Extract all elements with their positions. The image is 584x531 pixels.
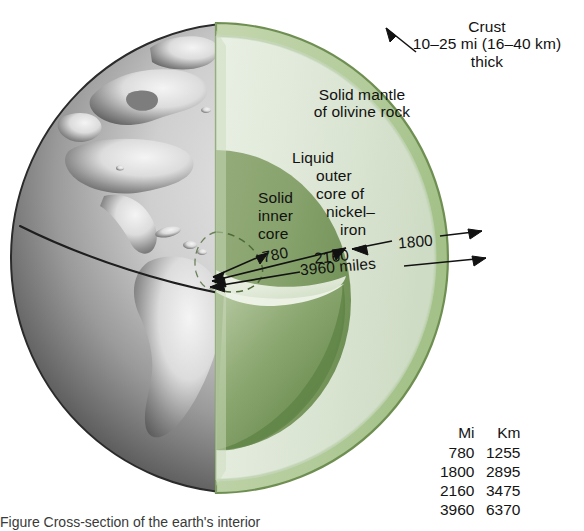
table-row: 1800 2895 [440,463,520,482]
mantle-label-line2: of olivine rock [272,103,452,120]
conversion-km-1: 2895 [474,463,520,482]
outer-core-label-line2: outer [316,167,352,184]
inner-core-label-line3: core [258,225,289,242]
conversion-mi-1: 1800 [440,463,474,482]
figure-caption-text: Figure Cross-section of the earth's inte… [0,514,260,530]
mantle-label-line1: Solid mantle [272,86,452,103]
crust-label-line3: thick [394,53,580,70]
outer-core-label-line4: nickel– [326,203,375,220]
table-row: 780 1255 [440,444,520,463]
outer-core-label-line1: Liquid [292,149,334,166]
inner-core-label-line2: inner [258,207,293,224]
conversion-mi-2: 2160 [440,482,474,501]
conversion-table-header-row: Mi Km [440,424,520,444]
earth-cutaway-figure: Crust 10–25 mi (16–40 km) thick Solid ma… [0,0,584,531]
outer-core-label-line3: core of [316,185,364,202]
crust-label: Crust 10–25 mi (16–40 km) thick [394,18,580,70]
crust-label-line1: Crust [394,18,580,35]
conversion-header-km: Km [474,424,520,444]
figure-caption: Figure Cross-section of the earth's inte… [0,514,584,531]
conversion-mi-0: 780 [440,444,474,463]
conversion-km-2: 3475 [474,482,520,501]
mantle-label: Solid mantle of olivine rock [272,86,452,121]
outer-core-label-line5: iron [340,221,366,238]
measure-mantle-thickness: 1800 [397,232,433,252]
conversion-km-0: 1255 [474,444,520,463]
table-row: 2160 3475 [440,482,520,501]
conversion-table: Mi Km 780 1255 1800 2895 2160 3475 [440,424,520,520]
inner-core-label-line1: Solid [258,189,293,206]
crust-label-line2: 10–25 mi (16–40 km) [394,35,580,52]
conversion-header-mi: Mi [440,424,474,444]
